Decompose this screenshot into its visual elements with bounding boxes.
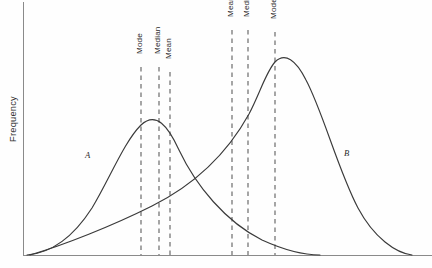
- stat-label-a-mean: Mean: [164, 38, 173, 59]
- distribution-curve-a: [27, 120, 320, 255]
- chart-plot-area: [0, 0, 432, 268]
- chart-figure: Frequency ModeMedianMeanAMeanMedianModeB: [0, 0, 432, 268]
- stat-label-b-mean: Mean: [226, 0, 235, 17]
- y-axis-label: Frequency: [8, 83, 18, 155]
- stat-label-a-median: Median: [153, 27, 162, 54]
- curve-label-a: A: [85, 150, 90, 160]
- stat-label-b-median: Median: [242, 0, 251, 17]
- stat-label-b-mode: Mode: [269, 0, 278, 19]
- stat-label-a-mode: Mode: [135, 33, 144, 54]
- curve-label-b: B: [344, 148, 349, 158]
- stat-marker-lines: [141, 30, 275, 255]
